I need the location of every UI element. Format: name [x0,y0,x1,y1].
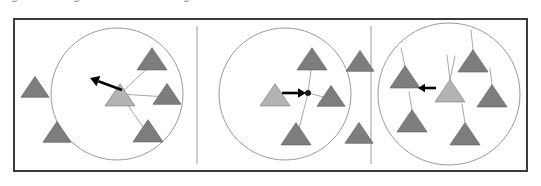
arrow-head [418,84,425,92]
tail-stub-3 [401,48,405,66]
figure-root: Figure: flocking / leader-follower neigh… [0,0,541,186]
tail-stub-6 [409,92,412,110]
neighbor-triangle-inside-2 [458,50,488,72]
velocity-arrow [282,88,306,98]
figure-canvas [15,20,526,170]
neighbor-triangle-inside-1 [390,66,420,88]
neighbor-triangle-inside-1 [297,48,327,70]
tail-stub-7 [462,104,465,123]
neighbor-triangle-outside-1 [346,51,374,72]
neighbor-triangle-outside-2 [43,122,71,143]
agent-triangle [260,84,290,106]
tail-stub-2 [450,56,455,80]
neighbor-triangle-inside-3 [133,120,163,142]
velocity-arrow [90,76,122,90]
tail-stub-5 [490,68,492,85]
caption-text: Figure: flocking / leader-follower neigh… [2,0,278,2]
neighbor-triangle-outside-1 [21,77,49,98]
tail-stub-4 [471,30,473,50]
arrow-head [298,88,306,98]
neighbor-triangle-inside-3 [281,123,311,145]
panel-2 [219,28,374,160]
neighbor-triangle-inside-4 [397,110,427,132]
neighbor-triangle-inside-3 [477,85,507,107]
neighbor-triangle-inside-2 [317,86,345,107]
neighbor-triangle-inside-5 [450,123,480,145]
agent-triangle [435,80,465,102]
figure-frame [13,18,528,172]
tail-stub-1 [447,55,450,80]
caption-strip: Figure: flocking / leader-follower neigh… [0,0,541,9]
velocity-arrow [418,84,436,92]
neighbor-triangle-inside-1 [137,48,167,70]
panel-3 [378,23,520,165]
neighbor-triangle-inside-2 [153,84,181,105]
panel-1 [21,28,183,160]
neighbor-triangle-outside-2 [345,123,373,144]
